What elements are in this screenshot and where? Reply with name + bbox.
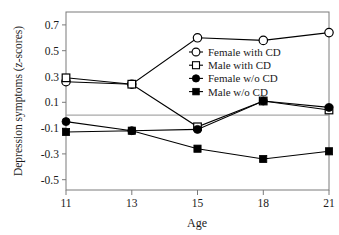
depression-symptoms-line-chart: 0.70.50.30.1-0.1-0.3-0.5 1113151821 Depr… — [0, 0, 339, 235]
y-tick-label: -0.3 — [41, 148, 59, 160]
filled-square-marker — [193, 88, 200, 95]
series-male-with-cd — [62, 74, 333, 131]
filled-square-marker — [194, 145, 201, 152]
legend-label: Male with CD — [208, 59, 271, 71]
filled-square-marker — [128, 127, 135, 134]
y-tick-label: 0.1 — [45, 96, 60, 108]
y-tick-label: 0.5 — [45, 45, 60, 57]
y-tick-label: -0.1 — [41, 122, 59, 134]
x-axis-ticks: 1113151821 — [60, 190, 335, 209]
filled-square-marker — [62, 128, 69, 135]
y-axis-title: Depression symptoms (z-scores) — [12, 26, 25, 176]
series-female-w-o-cd — [62, 97, 333, 135]
x-tick-label: 18 — [258, 197, 270, 209]
legend-item-female-with-cd: Female with CD — [189, 46, 281, 58]
x-tick-label: 15 — [192, 197, 204, 209]
filled-circle-marker — [325, 103, 333, 111]
x-axis-title: Age — [187, 216, 207, 230]
legend-label: Male w/o CD — [208, 86, 268, 98]
chart-legend: Female with CDMale with CDFemale w/o CDM… — [189, 46, 281, 98]
x-tick-label: 11 — [60, 197, 71, 209]
open-circle-marker — [259, 36, 267, 44]
x-tick-label: 13 — [126, 197, 138, 209]
legend-item-male-with-cd: Male with CD — [189, 59, 271, 71]
filled-circle-marker — [259, 97, 267, 105]
open-circle-marker — [192, 48, 200, 56]
legend-label: Female with CD — [208, 46, 281, 58]
filled-circle-marker — [194, 125, 202, 133]
legend-label: Female w/o CD — [208, 72, 278, 84]
open-square-marker — [193, 62, 200, 69]
open-circle-marker — [193, 34, 201, 42]
legend-item-male-w-o-cd: Male w/o CD — [189, 86, 268, 98]
filled-square-marker — [325, 148, 332, 155]
y-tick-label: 0.3 — [45, 71, 60, 83]
filled-circle-marker — [62, 118, 70, 126]
filled-circle-marker — [192, 75, 199, 82]
open-square-marker — [62, 74, 70, 82]
y-axis-ticks: 0.70.50.30.1-0.1-0.3-0.5 — [41, 19, 66, 186]
legend-item-female-w-o-cd: Female w/o CD — [189, 72, 278, 84]
series-path — [66, 78, 329, 127]
open-circle-marker — [325, 28, 333, 36]
open-square-marker — [128, 80, 136, 88]
chart-svg: 0.70.50.30.1-0.1-0.3-0.5 1113151821 Depr… — [0, 0, 339, 235]
x-tick-label: 21 — [323, 197, 335, 209]
y-tick-label: 0.7 — [45, 19, 60, 31]
y-tick-label: -0.5 — [41, 174, 59, 186]
filled-square-marker — [260, 155, 267, 162]
